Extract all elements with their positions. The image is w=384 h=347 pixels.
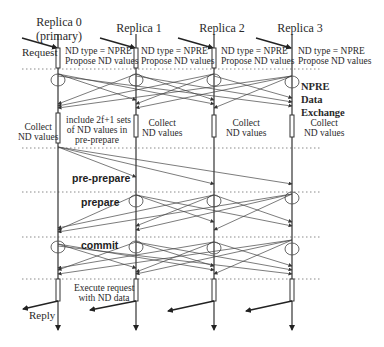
collect-label-3: Collect ND values [304, 119, 344, 139]
prepare-label: prepare [81, 197, 120, 208]
collect-label-1: Collect ND values [142, 119, 182, 139]
replica-3-title: Replica 3 [269, 22, 331, 34]
pre-prepare-label: pre-prepare [72, 173, 130, 184]
npre-data-exchange-label: NPRE Data Exchange [301, 80, 345, 119]
collect-label-2: Collect ND values [226, 119, 266, 139]
execute-note: Execute request with ND data [74, 283, 134, 304]
include-note: include 2f+1 sets of ND values in pre-pr… [66, 116, 128, 146]
replica-0-title: Replica 0 (primary) [28, 16, 90, 42]
collect-label-0: Collect ND values [18, 123, 58, 143]
reply-label: Reply [29, 310, 55, 321]
propose-label-2: ND type = NPRE Propose ND values [221, 47, 294, 67]
propose-label-1: ND type = NPRE Propose ND values [141, 47, 214, 67]
broadcast-circles [51, 74, 299, 255]
reply-arrows [23, 301, 292, 311]
replica-1-title: Replica 1 [108, 22, 170, 34]
npre-messages [58, 74, 292, 108]
replica-2-title: Replica 2 [191, 22, 253, 34]
request-label: Request [22, 47, 57, 58]
commit-label: commit [81, 240, 118, 251]
propose-label-3: ND type = NPRE Propose ND values [298, 47, 371, 67]
propose-label-0: ND type = NPRE Propose ND values [65, 47, 138, 67]
